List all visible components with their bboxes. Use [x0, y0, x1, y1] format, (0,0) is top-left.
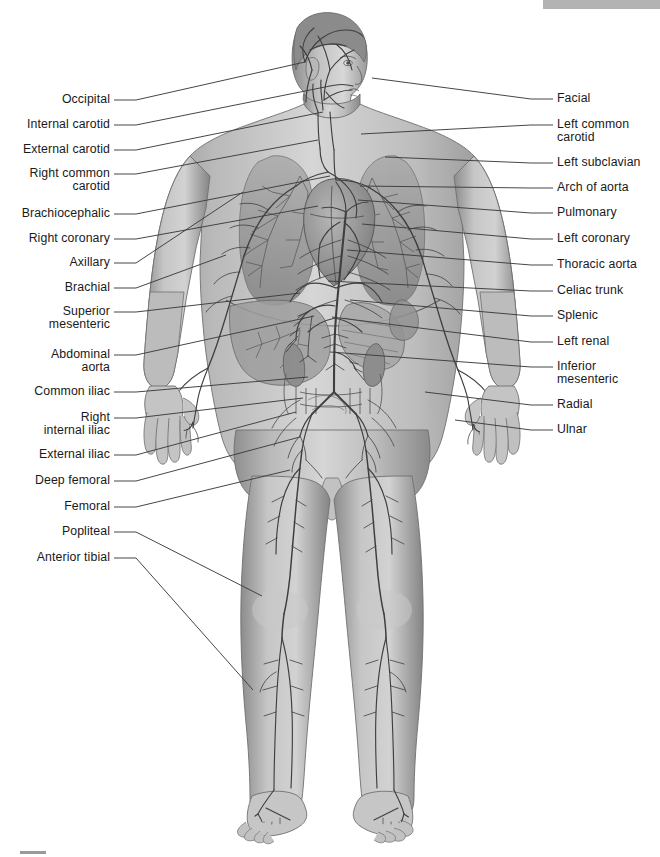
callout-label-external-carotid: External carotid	[23, 143, 110, 156]
callout-label-left-subclavian: Left subclavian	[557, 156, 641, 169]
left-knee	[356, 590, 412, 630]
callout-label-internal-carotid: Internal carotid	[27, 118, 110, 131]
right-leg	[241, 476, 330, 823]
callout-label-occipital: Occipital	[62, 93, 110, 106]
callout-label-anterior-tibial: Anterior tibial	[37, 551, 110, 564]
callout-label-left-common: Left common carotid	[557, 118, 629, 144]
callout-label-celiac-trunk: Celiac trunk	[557, 284, 623, 297]
callout-label-pulmonary: Pulmonary	[557, 206, 617, 219]
callout-label-superior: Superior mesenteric	[49, 305, 110, 331]
right-foot	[237, 791, 306, 844]
diagram-page: OccipitalInternal carotidExternal caroti…	[0, 0, 660, 857]
callout-label-external-iliac: External iliac	[39, 448, 110, 461]
callout-label-brachial: Brachial	[65, 281, 110, 294]
right-hand	[144, 386, 199, 464]
callout-label-right-coronary: Right coronary	[29, 232, 110, 245]
left-leg	[334, 476, 423, 823]
callout-label-femoral: Femoral	[64, 500, 110, 513]
callout-label-arch-of-aorta: Arch of aorta	[557, 181, 629, 194]
callout-label-facial: Facial	[557, 92, 590, 105]
callout-label-common-iliac: Common iliac	[34, 385, 110, 398]
left-forearm	[480, 292, 520, 388]
callout-label-ulnar: Ulnar	[557, 423, 587, 436]
callout-label-left-coronary: Left coronary	[557, 232, 630, 245]
callout-label-right: Right internal iliac	[44, 411, 110, 437]
callout-label-splenic: Splenic	[557, 309, 598, 322]
callout-label-left-renal: Left renal	[557, 335, 609, 348]
callout-label-deep-femoral: Deep femoral	[35, 474, 110, 487]
callout-label-thoracic-aorta: Thoracic aorta	[557, 258, 637, 271]
callout-label-radial: Radial	[557, 398, 592, 411]
left-foot	[353, 791, 413, 843]
callout-label-popliteal: Popliteal	[62, 525, 110, 538]
callout-label-inferior: Inferior mesenteric	[557, 360, 618, 386]
torso	[145, 104, 519, 480]
callout-label-axillary: Axillary	[70, 256, 110, 269]
callout-label-brachiocephalic: Brachiocephalic	[22, 207, 110, 220]
callout-label-right-common: Right common carotid	[30, 167, 110, 193]
right-knee	[252, 590, 308, 630]
callout-label-abdominal: Abdominal aorta	[51, 348, 110, 374]
right-forearm	[144, 292, 184, 388]
right-lung	[239, 156, 315, 305]
